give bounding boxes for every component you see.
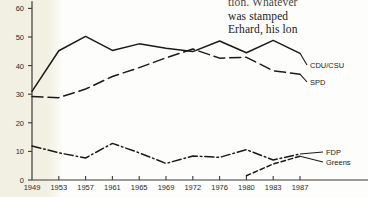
x-tick-label: 1949	[17, 183, 47, 192]
leader-line-greens	[300, 156, 323, 162]
y-tick-label: 20	[8, 119, 24, 128]
series-label-greens: Greens	[326, 158, 351, 167]
leader-line-fdp	[300, 152, 323, 154]
chart-canvas	[0, 0, 368, 197]
x-tick-label: 1961	[97, 183, 127, 192]
series-line-spd	[32, 49, 300, 98]
series-label-spd: SPD	[310, 78, 325, 87]
series-line-fdp	[32, 143, 300, 163]
x-tick-label: 1987	[285, 183, 315, 192]
y-tick-label: 50	[8, 33, 24, 42]
y-tick-label: 10	[8, 147, 24, 156]
x-tick-label: 1969	[151, 183, 181, 192]
series-label-fdp: FDP	[326, 148, 341, 157]
y-tick-label: 60	[8, 4, 24, 13]
x-tick-label: 1957	[71, 183, 101, 192]
x-tick-label: 1965	[124, 183, 154, 192]
x-tick-label: 1983	[258, 183, 288, 192]
leader-line-spd	[300, 74, 307, 82]
x-tick-label: 1953	[44, 183, 74, 192]
series-label-cdu-csu: CDU/CSU	[310, 61, 344, 70]
leader-line-cdu-csu	[300, 53, 307, 65]
x-tick-label: 1972	[178, 183, 208, 192]
x-tick-label: 1976	[205, 183, 235, 192]
y-tick-label: 40	[8, 62, 24, 71]
x-tick-label: 1980	[231, 183, 261, 192]
election-results-line-chart: 0102030405060194919531957196119651969197…	[0, 0, 368, 197]
y-tick-label: 30	[8, 90, 24, 99]
scanned-page: tion. Whatever was stamped Erhard, his l…	[0, 0, 368, 197]
